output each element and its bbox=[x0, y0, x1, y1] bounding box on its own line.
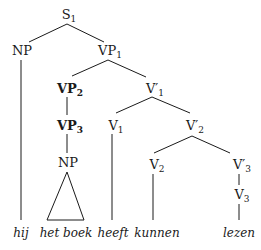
word-heeft: heeft bbox=[97, 226, 128, 240]
node-vp1-cat: VP bbox=[98, 43, 116, 58]
node-v1: V1 bbox=[108, 119, 123, 137]
node-vp2-cat: VP bbox=[57, 81, 77, 96]
node-vbar1-cat: V′ bbox=[146, 81, 158, 96]
node-v1-sub: 1 bbox=[118, 125, 124, 135]
node-vp1: VP1 bbox=[98, 44, 122, 62]
node-s1-cat: S bbox=[62, 7, 71, 22]
node-s1-sub: 1 bbox=[71, 14, 77, 24]
tree-branches bbox=[0, 0, 261, 250]
node-s1: S1 bbox=[62, 8, 77, 26]
word-lezen: lezen bbox=[223, 226, 255, 240]
node-vp3-cat: VP bbox=[57, 118, 77, 133]
node-vbar2-cat: V′ bbox=[186, 118, 198, 133]
node-vbar3-sub: 3 bbox=[245, 164, 251, 174]
node-vbar1: V′1 bbox=[146, 82, 164, 100]
node-v2: V2 bbox=[149, 158, 164, 176]
word-hij: hij bbox=[13, 226, 28, 240]
node-vbar3-cat: V′ bbox=[233, 157, 245, 172]
node-vbar1-sub: 1 bbox=[158, 88, 164, 98]
node-np-subject-cat: NP bbox=[12, 43, 32, 58]
node-vbar2: V′2 bbox=[186, 119, 204, 137]
node-np-object-cat: NP bbox=[58, 155, 78, 170]
node-v3: V3 bbox=[234, 188, 249, 206]
word-kunnen: kunnen bbox=[134, 226, 179, 240]
node-np-subject: NP bbox=[12, 44, 32, 58]
node-vp2: VP2 bbox=[57, 82, 83, 100]
word-het-boek: het boek bbox=[40, 226, 93, 240]
node-v3-cat: V bbox=[234, 187, 243, 202]
node-v1-cat: V bbox=[108, 118, 117, 133]
node-vp1-sub: 1 bbox=[116, 50, 122, 60]
node-vp2-sub: 2 bbox=[77, 88, 83, 98]
node-v3-sub: 3 bbox=[244, 194, 250, 204]
node-v2-cat: V bbox=[149, 157, 158, 172]
node-np-object: NP bbox=[58, 156, 78, 170]
node-vp3-sub: 3 bbox=[77, 125, 83, 135]
node-vp3: VP3 bbox=[57, 119, 83, 137]
node-v2-sub: 2 bbox=[159, 164, 165, 174]
node-vbar3: V′3 bbox=[233, 158, 251, 176]
node-vbar2-sub: 2 bbox=[198, 125, 204, 135]
